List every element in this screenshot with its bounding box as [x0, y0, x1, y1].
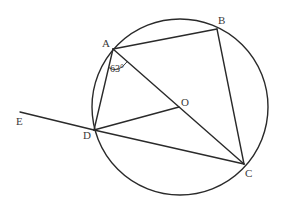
- label-o: O: [181, 96, 189, 108]
- segment-do: [94, 107, 179, 130]
- label-d: D: [83, 129, 91, 141]
- segment-ed: [20, 112, 94, 130]
- segment-ad: [94, 49, 113, 130]
- angle-label-dac: 63°: [110, 63, 124, 74]
- label-c: C: [245, 167, 252, 179]
- segment-ab: [113, 29, 217, 49]
- label-b: B: [218, 14, 225, 26]
- segment-dc: [94, 130, 244, 164]
- label-e: E: [16, 115, 23, 127]
- geometry-diagram: A B C D O E 63°: [0, 0, 284, 204]
- diagram-svg: A B C D O E 63°: [0, 0, 284, 204]
- label-a: A: [102, 37, 110, 49]
